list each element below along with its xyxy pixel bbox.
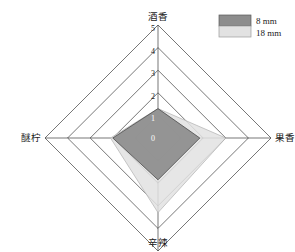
axis-label-bottom: 辛辣 <box>148 237 168 248</box>
radar-chart-svg: 5 4 3 2 1 0 酒香 果香 辛辣 醚柠 8 mm 18 mm <box>0 0 295 252</box>
axis-label-right: 果香 <box>275 132 295 143</box>
legend-label-8mm: 8 mm <box>256 16 277 26</box>
legend-label-18mm: 18 mm <box>256 28 281 38</box>
tick-label-1: 1 <box>151 114 155 123</box>
chart-legend: 8 mm 18 mm <box>219 15 281 38</box>
tick-label-3: 3 <box>151 69 155 78</box>
legend-swatch-18mm <box>219 26 251 37</box>
legend-swatch-8mm <box>219 15 251 26</box>
tick-label-0: 0 <box>151 134 155 143</box>
axis-label-left: 醚柠 <box>21 132 41 143</box>
axis-label-top: 酒香 <box>148 11 168 22</box>
radar-chart: 5 4 3 2 1 0 酒香 果香 辛辣 醚柠 8 mm 18 mm <box>0 0 295 252</box>
tick-label-2: 2 <box>151 92 155 101</box>
tick-label-4: 4 <box>151 47 155 56</box>
tick-label-5: 5 <box>151 24 155 33</box>
